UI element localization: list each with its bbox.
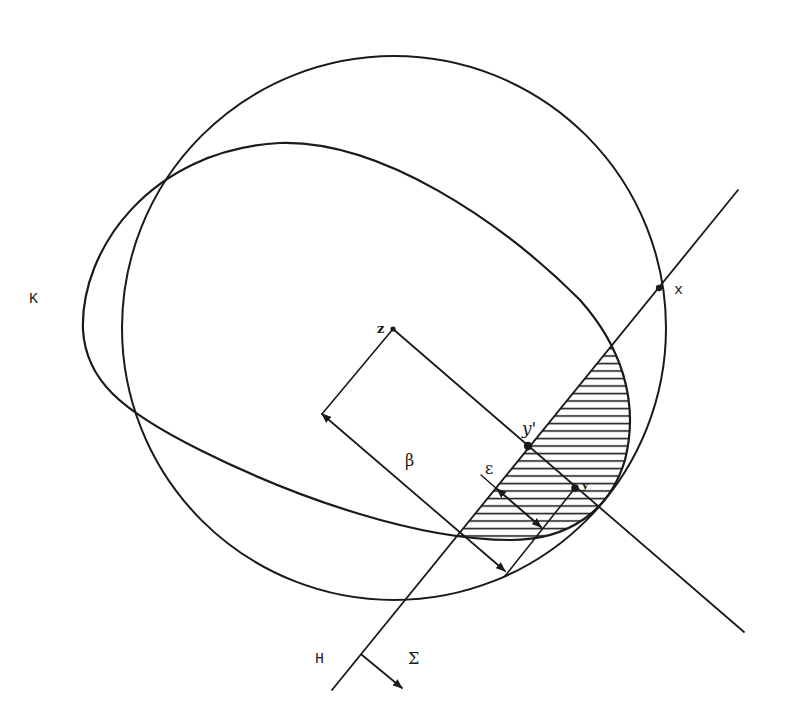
hyperplane-h-line — [332, 190, 738, 690]
hatched-cap-region — [0, 0, 785, 721]
beta-bracket-leg — [322, 329, 393, 414]
point-y-prime — [524, 442, 532, 450]
label-z: z — [377, 321, 384, 336]
z-to-y-normal-line — [393, 329, 744, 632]
label-h: H — [315, 651, 324, 668]
label-x: x — [674, 282, 683, 299]
point-x — [656, 285, 662, 291]
beta-dimension-arrow — [322, 414, 505, 571]
label-epsilon: ε — [485, 459, 493, 478]
label-sigma: Σ — [408, 649, 419, 668]
label-y: y — [581, 479, 589, 492]
sigma-direction-arrow — [362, 655, 402, 688]
label-beta: β — [405, 451, 414, 470]
point-y — [571, 484, 579, 492]
label-y-prime: y' — [521, 418, 536, 438]
label-k: K — [29, 291, 38, 308]
point-z — [390, 326, 395, 331]
geometry-diagram: K x z y' y β ε H Σ — [0, 0, 785, 721]
